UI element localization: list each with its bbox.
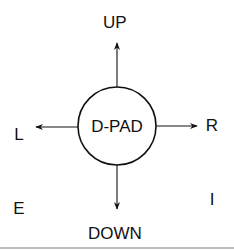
left-letter: E: [9, 197, 29, 222]
left-letter: L: [9, 123, 29, 148]
right-label: R I G H T: [202, 65, 222, 250]
dpad-center-label: D-PAD: [78, 118, 156, 135]
down-label: DOWN: [88, 225, 142, 242]
right-letter: I: [202, 188, 222, 213]
right-letter: R: [202, 114, 222, 139]
divider-line: [0, 247, 234, 249]
up-label: UP: [103, 14, 127, 31]
left-label: L E F T: [9, 74, 29, 250]
